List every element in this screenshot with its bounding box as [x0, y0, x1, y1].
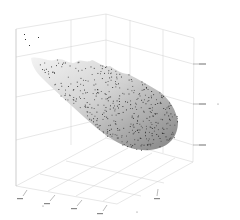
fitted-surface [31, 58, 178, 151]
floor-grid [16, 148, 193, 204]
3d-scatter-plot [0, 0, 240, 220]
